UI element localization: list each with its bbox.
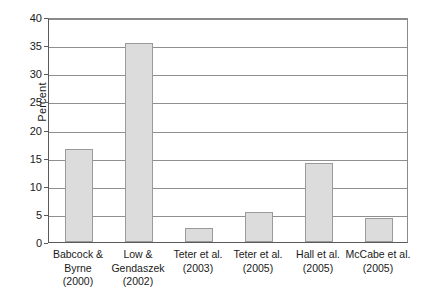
x-axis-label: McCabe et al.(2005): [342, 248, 414, 275]
y-tick-mark-25: [44, 102, 48, 103]
bar: [245, 212, 273, 242]
y-tick-mark-20: [44, 131, 48, 132]
bar: [185, 228, 213, 242]
y-tick-mark-15: [44, 159, 48, 160]
y-tick-label-25: 25: [2, 96, 42, 108]
bar-chart: Percent 0510152025303540 Babcock &Byrne(…: [0, 0, 423, 296]
bar: [305, 163, 333, 242]
bar: [365, 218, 393, 242]
x-axis-label-line: McCabe et al.: [342, 248, 414, 262]
y-tick-mark-10: [44, 187, 48, 188]
x-axis-labels: Babcock &Byrne(2000)Low &Gendaszek(2002)…: [48, 248, 408, 296]
y-tick-mark-5: [44, 215, 48, 216]
y-tick-mark-35: [44, 46, 48, 47]
y-tick-label-40: 40: [2, 12, 42, 24]
y-tick-label-15: 15: [2, 153, 42, 165]
y-tick-mark-30: [44, 74, 48, 75]
bars-group: [49, 19, 407, 242]
plot-area: [48, 18, 408, 243]
y-tick-label-5: 5: [2, 209, 42, 221]
y-tick-label-20: 20: [2, 125, 42, 137]
y-tick-label-10: 10: [2, 181, 42, 193]
y-tick-label-35: 35: [2, 40, 42, 52]
bar: [65, 149, 93, 242]
y-tick-mark-0: [44, 243, 48, 244]
bar: [125, 43, 153, 242]
x-axis-label-line: (2005): [342, 262, 414, 276]
y-tick-mark-40: [44, 18, 48, 19]
x-axis-label-line: (2002): [102, 275, 174, 289]
y-tick-label-30: 30: [2, 68, 42, 80]
y-tick-label-0: 0: [2, 237, 42, 249]
